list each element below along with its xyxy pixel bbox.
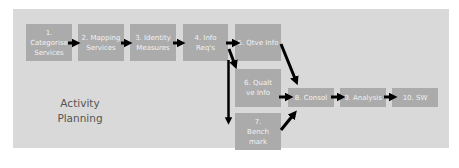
arrows-layer (0, 0, 459, 168)
arrow-5-to-8 (281, 44, 296, 81)
arrow-7-to-8 (281, 114, 294, 130)
arrow-4-to-6 (229, 49, 235, 65)
